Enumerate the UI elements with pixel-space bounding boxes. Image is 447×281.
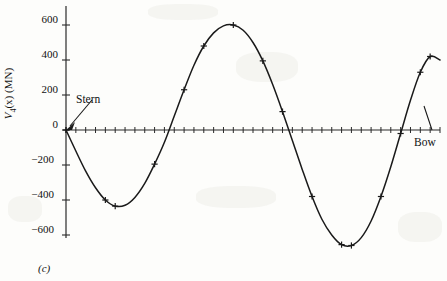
data-point-marker: [378, 193, 384, 199]
data-point-marker: [230, 22, 236, 28]
data-point-marker: [309, 193, 315, 199]
stern-arrow: [66, 100, 92, 130]
chart-plot-area: [0, 0, 447, 281]
data-point-marker: [348, 242, 354, 248]
data-point-marker: [151, 161, 157, 167]
data-point-marker: [181, 87, 187, 93]
bow-pointer: [424, 106, 432, 130]
bow-pointer-line: [424, 106, 432, 130]
data-curve-v4: [66, 25, 440, 247]
data-point-marker: [279, 109, 285, 115]
stern-arrow-line: [70, 100, 92, 126]
data-point-marker: [398, 130, 404, 136]
figure-panel: V4(x) (MN) 600 400 200 0 −200 −400 −600 …: [0, 0, 447, 281]
stern-arrow-head: [66, 122, 75, 130]
data-point-marker: [112, 203, 118, 209]
data-point-markers: [63, 22, 433, 249]
data-point-marker: [417, 69, 423, 75]
data-point-marker: [63, 127, 69, 133]
data-point-marker: [260, 58, 266, 64]
